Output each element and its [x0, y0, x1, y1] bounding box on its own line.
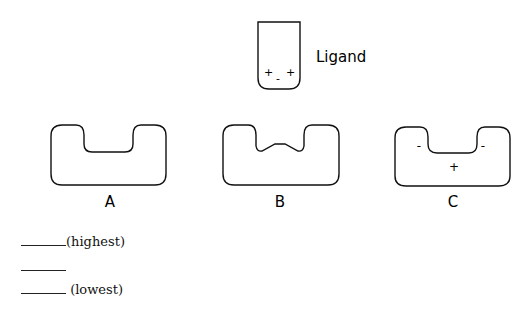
rank-suffix-lowest: (lowest) — [66, 282, 123, 297]
rank-blank-2[interactable] — [21, 258, 66, 271]
receptor-c-charge-plus: + — [449, 160, 459, 174]
receptor-a-label: A — [105, 193, 116, 211]
ligand-label: Ligand — [316, 48, 366, 66]
receptor-a-shape — [51, 125, 166, 185]
ligand-charge-minus: - — [276, 72, 280, 85]
receptor-c-shape — [395, 127, 510, 186]
receptor-b-shape — [223, 125, 339, 185]
receptor-c-charge-minus-right: - — [481, 139, 485, 153]
rank-suffix-highest: (highest) — [66, 234, 125, 249]
binding-diagram: + - + Ligand A B - - + C — [0, 0, 529, 311]
ligand-charge-plus-right: + — [286, 66, 295, 79]
rank-line-highest: (highest) — [21, 233, 125, 249]
receptor-b-label: B — [275, 193, 285, 211]
rank-line-middle — [21, 258, 66, 274]
rank-blank-3[interactable] — [21, 281, 66, 294]
rank-blank-1[interactable] — [21, 233, 66, 246]
receptor-c-label: C — [448, 193, 458, 211]
receptor-c-charge-minus-left: - — [417, 139, 421, 153]
rank-line-lowest: (lowest) — [21, 281, 123, 297]
ligand-charge-plus-left: + — [264, 66, 273, 79]
